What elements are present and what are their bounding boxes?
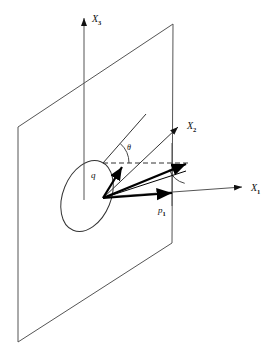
vector-label-p1: p1 [157,205,166,217]
axis-label-x1: X1 [250,182,260,195]
vector-label-q: q [91,170,96,180]
vector-resultant [103,164,186,198]
angle-label-theta: θ [127,143,131,152]
theta-reference-ray [103,114,146,163]
vector-diagram: X3 X2 X1 q p1 θ [0,0,276,361]
axis-label-x2: X2 [186,120,196,133]
figure-root: X3 X2 X1 q p1 θ [0,0,276,361]
axis-label-x3: X3 [91,13,102,26]
